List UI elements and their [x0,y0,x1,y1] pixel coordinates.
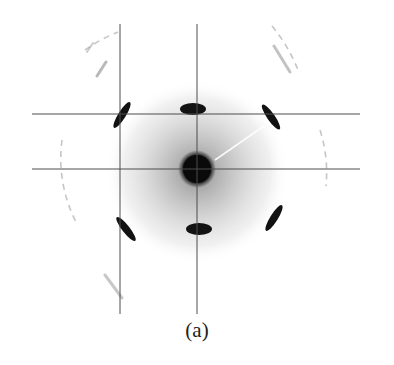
diffraction-pattern [0,0,394,365]
spot-bottom [186,223,212,235]
figure-caption: (a) [0,318,394,343]
spot-top [180,103,206,115]
guide-lines [32,24,360,314]
